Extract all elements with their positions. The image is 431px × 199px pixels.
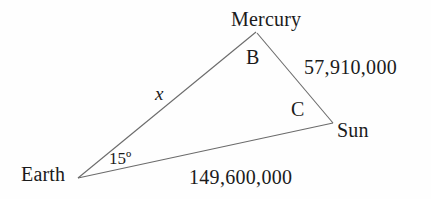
angle-label-earth-15-degrees: 15º	[109, 150, 131, 167]
side-label-mercury-sun-distance: 57,910,000	[304, 57, 397, 77]
angle-label-c: C	[291, 99, 304, 119]
triangle-diagram: Mercury Sun Earth B C 15º x 57,910,000 1…	[0, 0, 431, 199]
line-earth-to-mercury	[78, 32, 256, 178]
vertex-label-sun: Sun	[337, 120, 369, 140]
angle-label-b: B	[246, 47, 259, 67]
vertex-label-earth: Earth	[21, 164, 65, 184]
side-label-unknown-x: x	[155, 84, 163, 103]
vertex-label-mercury: Mercury	[231, 9, 301, 29]
side-label-earth-sun-distance: 149,600,000	[189, 167, 292, 187]
